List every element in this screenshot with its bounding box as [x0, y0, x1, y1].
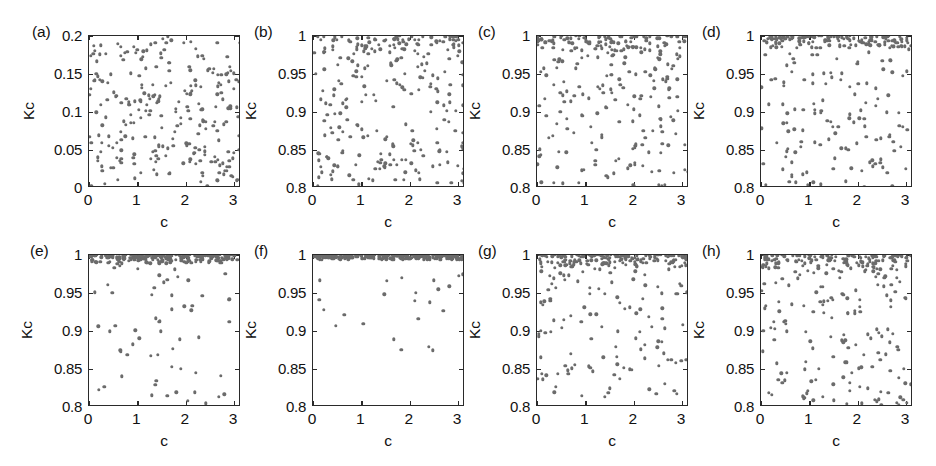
x-tick-label: 0 [756, 410, 765, 428]
data-point [909, 254, 912, 257]
data-point [809, 254, 812, 257]
x-tickmark [809, 401, 810, 405]
data-point [831, 267, 834, 270]
data-point [896, 348, 899, 351]
data-point [850, 371, 853, 374]
data-point [804, 330, 807, 333]
y-tickmark [907, 293, 911, 294]
data-point [882, 276, 885, 279]
data-point [897, 376, 900, 379]
data-point [810, 380, 813, 383]
data-point [770, 393, 773, 396]
data-point [812, 310, 815, 313]
x-tick-label: 3 [901, 410, 910, 428]
data-point [841, 376, 844, 379]
data-point [796, 277, 799, 280]
data-point [775, 361, 778, 364]
data-point [869, 337, 872, 340]
data-point [886, 328, 889, 331]
data-point [877, 272, 880, 275]
data-point [845, 402, 848, 405]
data-point [849, 267, 852, 270]
data-point [784, 322, 787, 325]
data-point [881, 259, 884, 262]
data-point [879, 358, 882, 361]
data-point [879, 390, 882, 393]
data-point [904, 382, 907, 385]
data-point [760, 289, 763, 292]
data-point [847, 346, 850, 349]
data-point [889, 299, 892, 302]
data-point [911, 255, 912, 258]
data-point [848, 381, 851, 384]
data-point [777, 300, 780, 303]
data-point [832, 355, 835, 358]
data-point [821, 303, 824, 306]
data-point [830, 254, 833, 257]
data-point [859, 366, 862, 369]
y-tick-label: 0.85 [726, 360, 754, 377]
data-point [904, 297, 907, 300]
data-point [794, 270, 797, 273]
data-point [798, 254, 801, 257]
data-point [767, 267, 770, 270]
data-point [832, 383, 835, 386]
data-point [891, 264, 894, 267]
data-point [840, 270, 843, 273]
data-point [902, 367, 905, 370]
data-point [805, 392, 808, 395]
data-point [891, 332, 894, 335]
data-point [890, 267, 893, 270]
data-point [809, 260, 812, 263]
data-point [806, 269, 809, 272]
y-tickmark [761, 369, 765, 370]
data-point [830, 316, 833, 319]
data-point [846, 311, 849, 314]
data-point [765, 262, 768, 265]
data-point [812, 271, 815, 274]
data-point [858, 298, 861, 301]
data-point [864, 268, 867, 271]
x-tickmark [858, 401, 859, 405]
data-point [773, 338, 776, 341]
data-point [848, 389, 851, 392]
x-tick-label: 1 [804, 410, 813, 428]
data-point [798, 273, 801, 276]
data-point [825, 263, 828, 266]
data-point [879, 268, 882, 271]
data-point [783, 379, 786, 382]
data-point [804, 360, 807, 363]
data-point [876, 283, 879, 286]
data-point [814, 258, 817, 261]
data-point [777, 262, 780, 265]
data-point [905, 401, 908, 404]
x-tickmark [761, 401, 762, 405]
data-point [803, 255, 806, 258]
data-point [781, 277, 784, 280]
data-point [817, 367, 820, 370]
data-point [889, 283, 892, 286]
data-point [811, 347, 814, 350]
data-point [832, 399, 835, 402]
data-point [838, 276, 841, 279]
data-point [817, 267, 820, 270]
data-point [777, 266, 780, 269]
data-point [791, 254, 794, 257]
data-point [877, 259, 880, 262]
data-point [829, 335, 832, 338]
data-point [858, 305, 861, 308]
y-tickmark [761, 293, 765, 294]
data-point [859, 310, 862, 313]
data-point [893, 290, 896, 293]
data-point [898, 280, 901, 283]
panel-label: (h) [702, 242, 720, 260]
data-point [790, 302, 793, 305]
data-point [874, 275, 877, 278]
data-point [882, 255, 885, 258]
data-point [858, 385, 861, 388]
data-point [769, 326, 772, 329]
data-point [821, 395, 824, 398]
data-point [847, 254, 850, 257]
data-point [854, 288, 857, 291]
data-point [772, 320, 775, 323]
